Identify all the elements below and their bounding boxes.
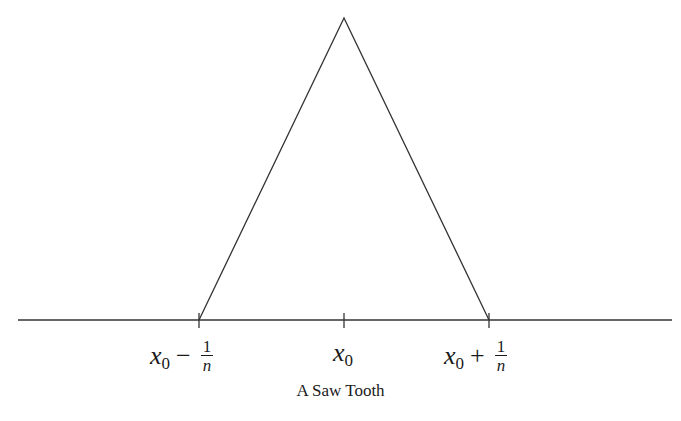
var-x: x (444, 341, 456, 370)
plus-sign: + (470, 341, 485, 370)
subscript-0: 0 (456, 354, 465, 373)
fraction-one-over-n: 1n (495, 338, 508, 374)
tick-label-left: x0−1n (150, 340, 213, 376)
subscript-0: 0 (162, 354, 171, 373)
fraction-one-over-n: 1n (201, 338, 214, 374)
tick-label-right: x0+1n (444, 340, 507, 376)
var-x: x (150, 341, 162, 370)
var-x: x (333, 338, 345, 367)
saw-tooth-curve (199, 18, 489, 320)
tick-label-center: x0 (333, 340, 353, 369)
subscript-0: 0 (345, 351, 354, 370)
numerator: 1 (495, 338, 508, 356)
numerator: 1 (201, 338, 214, 356)
denominator: n (497, 356, 506, 374)
minus-sign: − (176, 341, 191, 370)
denominator: n (203, 356, 212, 374)
figure-caption: A Saw Tooth (0, 382, 681, 399)
